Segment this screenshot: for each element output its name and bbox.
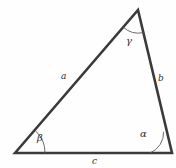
angle-label-beta: β <box>37 133 43 143</box>
side-label-c: c <box>92 157 97 166</box>
angle-arc-gamma <box>123 27 143 33</box>
side-label-a: a <box>61 72 66 81</box>
angle-arc-alpha <box>150 132 164 153</box>
triangle-drawing <box>0 0 176 168</box>
angle-label-gamma: γ <box>126 36 132 46</box>
angle-label-alpha: α <box>140 129 147 139</box>
side-label-b: b <box>158 74 164 83</box>
triangle-figure: a b c α β γ <box>0 0 176 168</box>
